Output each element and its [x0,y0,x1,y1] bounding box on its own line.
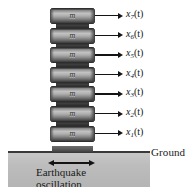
displacement-arrow-3 [95,90,123,98]
displacement-arrow-7 [95,12,123,20]
arrow-head-right-icon [118,130,123,136]
mass-block-2: m [50,106,95,122]
coordinate-argument: (t) [134,106,143,117]
displacement-arrow-2 [95,110,123,118]
mass-block-7: m [50,8,95,24]
displacement-arrow-5 [95,51,123,59]
mass-block-4: m [50,67,95,83]
caption-line-1: Earthquake [36,167,116,179]
displacement-arrow-4 [95,71,123,79]
coordinate-argument: (t) [134,67,143,78]
displacement-label-6: x6(t) [126,28,143,41]
ground-label: Ground [151,146,185,158]
displacement-arrow-1 [95,130,123,138]
earthquake-oscillation-caption: Earthquake oscillation [36,167,116,187]
arrow-head-right-icon [118,52,123,58]
caption-line-2: oscillation [36,179,116,188]
mass-block-3: m [50,86,95,102]
displacement-label-4: x4(t) [126,67,143,80]
arrow-head-right-icon [89,160,95,166]
arrow-shaft [95,35,118,36]
displacement-label-7: x7(t) [126,8,143,21]
arrow-head-right-icon [118,13,123,19]
arrow-shaft [53,162,90,164]
coordinate-argument: (t) [134,86,143,97]
earthquake-building-model-figure: Ground mx7(t)mx6(t)mx5(t)mx4(t)mx3(t)mx2… [0,0,189,187]
mass-symbol-label: m [50,49,95,60]
mass-symbol-label: m [50,108,95,119]
displacement-label-5: x5(t) [126,47,143,60]
arrow-shaft [95,93,118,94]
arrow-shaft [95,133,118,134]
foundation-slab [52,146,93,152]
arrow-head-right-icon [118,111,123,117]
mass-symbol-label: m [50,88,95,99]
arrow-shaft [95,54,118,55]
displacement-label-3: x3(t) [126,86,143,99]
coordinate-argument: (t) [134,47,143,58]
displacement-label-2: x2(t) [126,106,143,119]
displacement-label-1: x1(t) [126,126,143,139]
arrow-head-right-icon [118,32,123,38]
arrow-head-right-icon [118,91,123,97]
mass-block-5: m [50,47,95,63]
displacement-arrow-6 [95,32,123,40]
mass-symbol-label: m [50,10,95,21]
mass-symbol-label: m [50,69,95,80]
arrow-shaft [95,15,118,16]
coordinate-argument: (t) [134,28,143,39]
mass-block-6: m [50,28,95,44]
mass-symbol-label: m [50,128,95,139]
mass-block-1: m [50,126,95,142]
coordinate-argument: (t) [134,8,143,19]
arrow-shaft [95,74,118,75]
mass-symbol-label: m [50,30,95,41]
coordinate-argument: (t) [134,126,143,137]
arrow-head-right-icon [118,71,123,77]
arrow-shaft [95,113,118,114]
